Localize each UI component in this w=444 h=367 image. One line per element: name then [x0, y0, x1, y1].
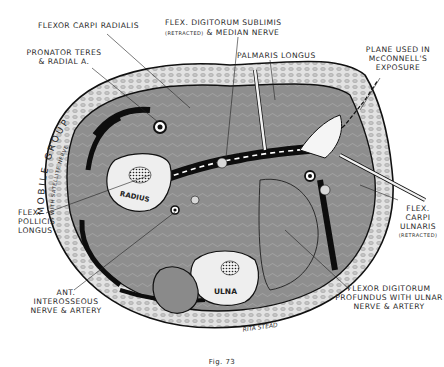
label-fdp: FLEXOR DIGITORUM PROFUNDUS WITH ULNAR NE…: [334, 284, 444, 311]
label-pronator-line2: & RADIAL A.: [24, 57, 104, 66]
label-fdp-line3: NERVE & ARTERY: [334, 302, 444, 311]
ulnar-nerve: [320, 185, 330, 195]
label-ant-line2: INTEROSSEOUS: [28, 297, 104, 306]
label-plane-mcconnell: PLANE USED IN McCONNELL'S EXPOSURE: [352, 45, 444, 72]
label-fcu-retracted: (RETRACTED): [392, 231, 444, 240]
label-fpl-line1: FLEX.: [18, 208, 55, 217]
label-flex-carpi-ulnaris: FLEX. CARPI ULNARIS (RETRACTED): [392, 204, 444, 240]
label-ant-line3: NERVE & ARTERY: [28, 306, 104, 315]
label-fpl-line3: LONGUS: [18, 226, 55, 235]
label-plane-line1: PLANE USED IN: [352, 45, 444, 54]
ulna-bone: [191, 251, 259, 305]
label-fcu-line1: FLEX.: [392, 204, 444, 213]
label-plane-line2: McCONNELL'S: [352, 54, 444, 63]
ulna-label: ULNA: [214, 287, 237, 296]
label-plane-line3: EXPOSURE: [352, 63, 444, 72]
figure-caption: Fig. 73: [190, 358, 254, 367]
label-fds-line1: FLEX. DIGITORUM SUBLIMIS: [165, 18, 282, 27]
forearm-cross-section-figure: MOBILE GROUP WITH SATELLITE NERVE RADIUS…: [0, 0, 444, 367]
label-fdp-line2: PROFUNDUS WITH ULNAR: [334, 293, 444, 302]
label-fcu-line3: ULNARIS: [392, 222, 444, 231]
label-fds-line2: (RETRACTED) & MEDIAN NERVE: [165, 28, 279, 38]
label-palmaris-longus: PALMARIS LONGUS: [237, 51, 316, 60]
median-nerve: [217, 158, 227, 168]
label-ant-line1: ANT.: [28, 288, 104, 297]
label-pronator-line1: PRONATOR TERES: [24, 48, 104, 57]
label-fds-median: & MEDIAN NERVE: [207, 28, 280, 37]
label-fds-retracted: (RETRACTED): [165, 30, 204, 36]
label-pronator-teres: PRONATOR TERES & RADIAL A.: [24, 48, 104, 66]
label-flex-pollicis-longus: FLEX. POLLICIS LONGUS: [18, 208, 55, 235]
label-ant-interosseous: ANT. INTEROSSEOUS NERVE & ARTERY: [28, 288, 104, 315]
label-flexor-carpi-radialis: FLEXOR CARPI RADIALIS: [38, 21, 139, 30]
label-fdp-line1: FLEXOR DIGITORUM: [334, 284, 444, 293]
label-fcu-line2: CARPI: [392, 213, 444, 222]
label-fpl-line2: POLLICIS: [18, 217, 55, 226]
